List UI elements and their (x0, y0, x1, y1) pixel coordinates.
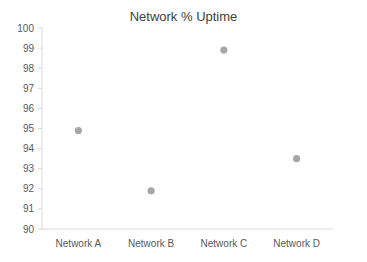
x-category-label: Network D (273, 238, 320, 249)
y-tick-label: 99 (23, 43, 35, 54)
data-point (220, 47, 227, 54)
data-point (148, 187, 155, 194)
x-axis: Network ANetwork BNetwork CNetwork D (42, 229, 333, 249)
x-category-label: Network A (56, 238, 102, 249)
y-tick-label: 93 (23, 163, 35, 174)
data-point (75, 127, 82, 134)
y-tick-label: 91 (23, 203, 35, 214)
data-points (75, 47, 300, 195)
y-tick-label: 98 (23, 63, 35, 74)
y-tick-label: 96 (23, 103, 35, 114)
y-tick-label: 95 (23, 123, 35, 134)
y-tick-label: 100 (17, 23, 34, 34)
y-tick-label: 94 (23, 143, 35, 154)
x-category-label: Network C (201, 238, 248, 249)
x-category-label: Network B (128, 238, 174, 249)
y-axis: 10099989796959493929190 (17, 23, 42, 235)
scatter-chart: 10099989796959493929190 Network ANetwork… (0, 0, 367, 262)
y-tick-label: 97 (23, 83, 35, 94)
y-tick-label: 92 (23, 183, 35, 194)
y-tick-label: 90 (23, 224, 35, 235)
data-point (293, 155, 300, 162)
